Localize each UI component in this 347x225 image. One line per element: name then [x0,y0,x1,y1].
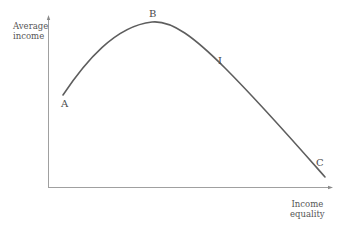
point-label-b: B [149,8,156,20]
y-axis-label-line2: income [13,31,48,41]
x-axis-arrow-icon [328,186,333,189]
income-curve [63,22,325,177]
x-axis-label-line2: equality [290,209,325,219]
point-label-i: I [218,55,222,67]
point-label-a: A [61,98,68,110]
x-axis-label-line1: Income [290,199,325,209]
x-axis-label: Income equality [290,199,325,219]
chart-canvas [0,0,347,225]
y-axis-arrow-icon [47,15,50,20]
y-axis-label-line1: Average [13,21,48,31]
point-label-c: C [316,157,324,169]
y-axis-label: Average income [13,21,48,41]
